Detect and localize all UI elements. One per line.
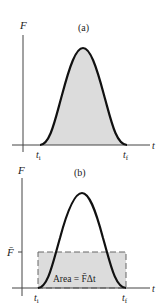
panel-a-x-axis-label: t <box>152 140 155 151</box>
panel-a-t-initial: ti <box>36 149 41 162</box>
panel-a-t-final: tf <box>123 149 129 162</box>
panel-b-label: (b) <box>74 167 86 179</box>
panel-b-t-initial: ti <box>34 292 39 305</box>
panel-b: F (b) F̄ Area = F̄Δt t ti tf <box>6 164 155 305</box>
area-label: Area = F̄Δt <box>53 273 96 284</box>
panel-b-y-axis-label: F <box>17 164 25 176</box>
f-bar-label: F̄ <box>6 246 14 258</box>
panel-a-label: (a) <box>78 22 89 34</box>
impulse-diagram: F (a) t ti tf F (b) F̄ Area = F̄Δt t ti … <box>0 0 168 306</box>
panel-b-x-axis-label: t <box>152 283 155 294</box>
panel-a-y-axis-label: F <box>19 19 27 31</box>
panel-a: F (a) t ti tf <box>12 19 155 162</box>
panel-b-t-final: tf <box>122 292 128 305</box>
